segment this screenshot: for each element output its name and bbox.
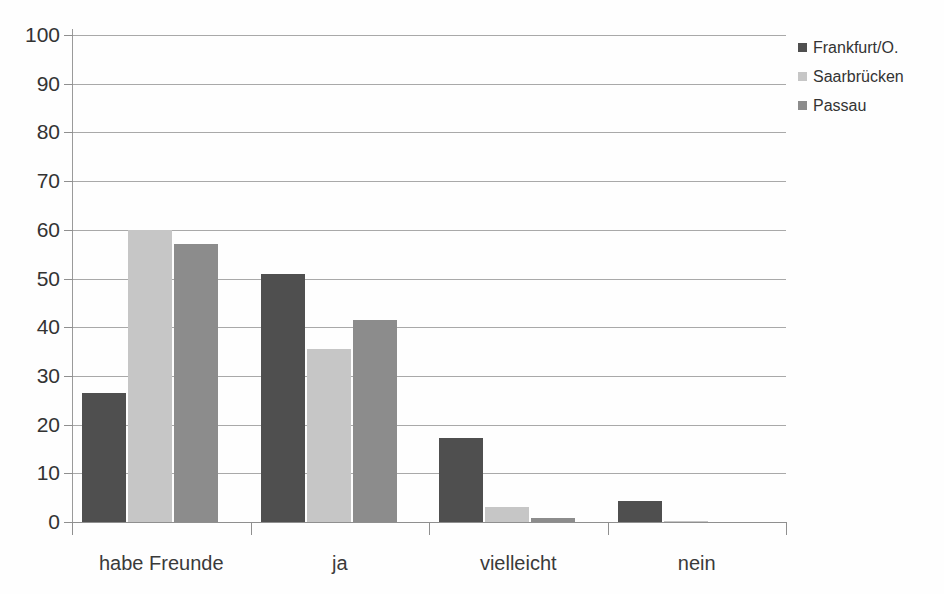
legend-swatch-icon bbox=[798, 72, 807, 81]
bar-vielleicht-frankfurto bbox=[439, 438, 483, 522]
bar-habefreunde-passau bbox=[174, 244, 218, 522]
x-axis-label-ja: ja bbox=[251, 552, 430, 575]
legend-label: Passau bbox=[813, 98, 866, 114]
x-axis-label-nein: nein bbox=[608, 552, 787, 575]
legend: Frankfurt/O.SaarbrückenPassau bbox=[798, 33, 944, 120]
legend-item-frankfurto[interactable]: Frankfurt/O. bbox=[798, 33, 944, 62]
bar-chart: 1009080706050403020100 habe Freundejavie… bbox=[0, 0, 944, 594]
legend-label: Saarbrücken bbox=[813, 69, 904, 85]
bar-habefreunde-saarbrcken bbox=[128, 230, 172, 522]
legend-swatch-icon bbox=[798, 101, 807, 110]
legend-item-passau[interactable]: Passau bbox=[798, 91, 944, 120]
bar-ja-frankfurto bbox=[261, 274, 305, 522]
bar-nein-frankfurto bbox=[618, 501, 662, 522]
x-axis-label-habefreunde: habe Freunde bbox=[72, 552, 251, 575]
bar-vielleicht-saarbrcken bbox=[485, 507, 529, 522]
bar-nein-saarbrcken bbox=[664, 521, 708, 522]
legend-swatch-icon bbox=[798, 43, 807, 52]
bar-ja-saarbrcken bbox=[307, 349, 351, 522]
bar-vielleicht-passau bbox=[531, 518, 575, 522]
bar-ja-passau bbox=[353, 320, 397, 522]
bar-habefreunde-frankfurto bbox=[82, 393, 126, 522]
x-axis-label-vielleicht: vielleicht bbox=[429, 552, 608, 575]
legend-item-saarbrcken[interactable]: Saarbrücken bbox=[798, 62, 944, 91]
legend-label: Frankfurt/O. bbox=[813, 40, 898, 56]
